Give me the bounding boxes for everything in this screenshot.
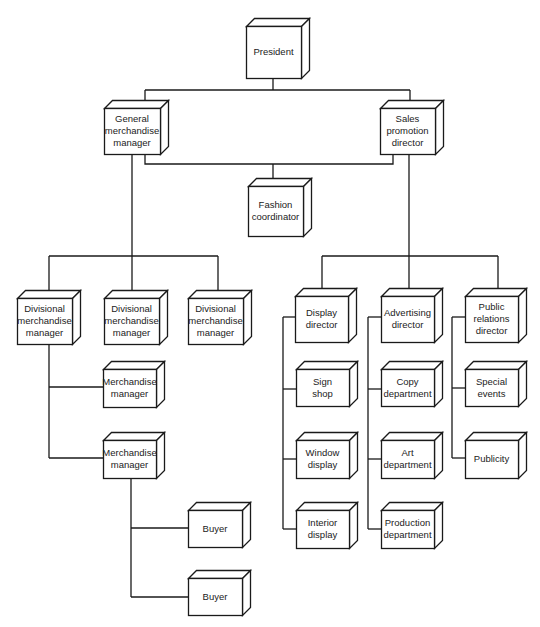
org-box-label: Interior display [296, 510, 349, 548]
org-box-label: Sales promotion director [380, 108, 435, 154]
org-box-display: Display director [295, 288, 358, 344]
org-box-fashion: Fashion coordinator [248, 178, 313, 238]
org-box-label: Window display [296, 440, 349, 478]
org-box-label: Buyer [188, 510, 242, 547]
org-box-sign: Sign shop [296, 361, 359, 408]
org-box-label: Copy department [381, 369, 434, 406]
org-box-label: Merchandise manager [103, 369, 156, 407]
org-box-dmm3: Divisional merchandise manager [188, 290, 253, 346]
org-box-mm1: Merchandise manager [103, 361, 166, 409]
org-box-buyer2: Buyer [188, 570, 252, 617]
org-box-pr: Public relations director [465, 288, 528, 344]
org-box-label: Divisional merchandise manager [188, 298, 243, 344]
org-box-label: Special events [465, 369, 518, 406]
org-box-special: Special events [465, 361, 528, 408]
org-box-spd: Sales promotion director [380, 100, 445, 156]
org-box-label: Publicity [465, 440, 518, 478]
org-box-label: Art department [381, 440, 434, 478]
org-box-dmm1: Divisional merchandise manager [17, 290, 82, 346]
org-box-label: Advertising director [381, 296, 434, 342]
org-box-label: Merchandise manager [103, 440, 156, 478]
org-box-gmm: General merchandise manager [104, 100, 170, 156]
org-box-label: Sign shop [296, 369, 349, 406]
org-box-window: Window display [296, 432, 359, 480]
org-box-label: President [246, 26, 301, 78]
org-box-interior: Interior display [296, 502, 359, 550]
org-box-label: Production department [381, 510, 434, 548]
org-box-president: President [246, 18, 311, 80]
org-box-publicity: Publicity [465, 432, 528, 480]
org-box-label: Fashion coordinator [248, 186, 303, 236]
org-box-label: Buyer [188, 578, 242, 615]
org-box-label: Divisional merchandise manager [104, 298, 159, 344]
org-box-advertising: Advertising director [381, 288, 444, 344]
org-box-art: Art department [381, 432, 444, 480]
org-box-label: Divisional merchandise manager [17, 298, 72, 344]
org-box-copy: Copy department [381, 361, 444, 408]
org-box-label: Display director [295, 296, 348, 342]
org-box-production: Production department [381, 502, 444, 550]
org-box-label: Public relations director [465, 296, 518, 342]
org-box-dmm2: Divisional merchandise manager [104, 290, 169, 346]
org-box-buyer1: Buyer [188, 502, 252, 549]
org-chart: PresidentGeneral merchandise managerSale… [0, 0, 540, 627]
org-box-mm2: Merchandise manager [103, 432, 166, 480]
org-box-label: General merchandise manager [104, 108, 160, 154]
